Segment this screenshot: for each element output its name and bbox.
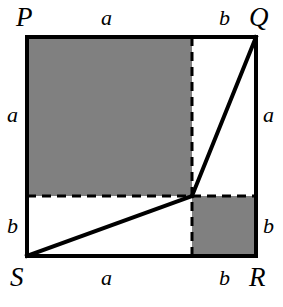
vertex-label-q: Q <box>249 4 269 31</box>
shaded-region-upper-left <box>27 37 192 196</box>
segment-label-top-right: b <box>219 7 230 29</box>
figure-canvas <box>0 0 283 307</box>
vertex-label-s: S <box>10 264 24 291</box>
segment-label-bottom-left: a <box>101 267 112 289</box>
segment-label-top-left: a <box>101 7 112 29</box>
diagonal-s-to-center <box>27 196 192 256</box>
vertex-label-r: R <box>249 264 266 291</box>
geometry-figure: P Q R S a b a b a b a b <box>0 0 283 307</box>
segment-label-bottom-right: b <box>219 267 230 289</box>
segment-label-right-lower: b <box>263 215 274 237</box>
vertex-label-p: P <box>16 4 33 31</box>
shaded-region-lower-right <box>192 196 256 256</box>
segment-label-left-lower: b <box>7 215 18 237</box>
segment-label-left-upper: a <box>7 104 18 126</box>
segment-label-right-upper: a <box>263 104 274 126</box>
diagonal-center-to-q <box>192 37 256 196</box>
